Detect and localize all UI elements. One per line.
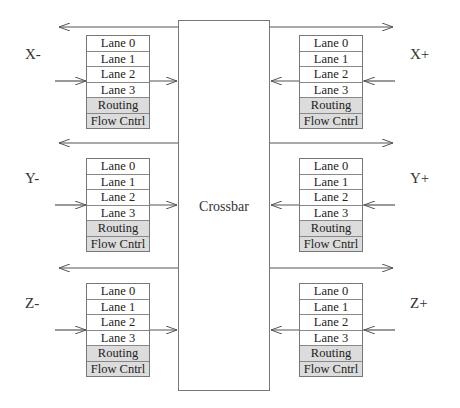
lane-2-cell: Lane 2 <box>300 315 362 331</box>
lane-3-cell: Lane 3 <box>87 83 149 99</box>
crossbar: Crossbar <box>178 20 270 391</box>
routing-cell: Routing <box>300 346 362 362</box>
lane-0-cell: Lane 0 <box>300 159 362 175</box>
flow-control-cell: Flow Cntrl <box>300 114 362 129</box>
lane-1-cell: Lane 1 <box>87 300 149 316</box>
routing-cell: Routing <box>87 98 149 114</box>
port-label-z-plus: Z+ <box>410 295 428 311</box>
crossbar-label: Crossbar <box>179 199 269 215</box>
flow-control-cell: Flow Cntrl <box>300 362 362 377</box>
lane-3-cell: Lane 3 <box>300 331 362 347</box>
lane-3-cell: Lane 3 <box>300 83 362 99</box>
buffer-x-plus: Lane 0 Lane 1 Lane 2 Lane 3 Routing Flow… <box>299 35 363 129</box>
router-diagram: Crossbar X- Y- Z- X+ Y+ Z+ Lane 0 Lane 1… <box>0 0 460 408</box>
lane-0-cell: Lane 0 <box>300 284 362 300</box>
routing-cell: Routing <box>300 98 362 114</box>
port-label-y-plus: Y+ <box>410 170 429 186</box>
port-label-x-plus: X+ <box>410 46 429 62</box>
routing-cell: Routing <box>87 221 149 237</box>
lane-0-cell: Lane 0 <box>87 36 149 52</box>
flow-control-cell: Flow Cntrl <box>87 114 149 129</box>
buffer-x-minus: Lane 0 Lane 1 Lane 2 Lane 3 Routing Flow… <box>86 35 150 129</box>
lane-1-cell: Lane 1 <box>300 300 362 316</box>
lane-1-cell: Lane 1 <box>87 52 149 68</box>
flow-control-cell: Flow Cntrl <box>300 237 362 252</box>
lane-1-cell: Lane 1 <box>300 175 362 191</box>
lane-2-cell: Lane 2 <box>300 190 362 206</box>
lane-2-cell: Lane 2 <box>87 67 149 83</box>
lane-1-cell: Lane 1 <box>87 175 149 191</box>
buffer-y-minus: Lane 0 Lane 1 Lane 2 Lane 3 Routing Flow… <box>86 158 150 252</box>
lane-1-cell: Lane 1 <box>300 52 362 68</box>
buffer-y-plus: Lane 0 Lane 1 Lane 2 Lane 3 Routing Flow… <box>299 158 363 252</box>
lane-0-cell: Lane 0 <box>87 284 149 300</box>
routing-cell: Routing <box>87 346 149 362</box>
buffer-z-minus: Lane 0 Lane 1 Lane 2 Lane 3 Routing Flow… <box>86 283 150 377</box>
routing-cell: Routing <box>300 221 362 237</box>
lane-3-cell: Lane 3 <box>87 206 149 222</box>
port-label-x-minus: X- <box>25 46 41 62</box>
port-label-z-minus: Z- <box>25 295 39 311</box>
lane-3-cell: Lane 3 <box>300 206 362 222</box>
flow-control-cell: Flow Cntrl <box>87 237 149 252</box>
lane-0-cell: Lane 0 <box>300 36 362 52</box>
lane-2-cell: Lane 2 <box>87 315 149 331</box>
lane-2-cell: Lane 2 <box>87 190 149 206</box>
buffer-z-plus: Lane 0 Lane 1 Lane 2 Lane 3 Routing Flow… <box>299 283 363 377</box>
lane-2-cell: Lane 2 <box>300 67 362 83</box>
flow-control-cell: Flow Cntrl <box>87 362 149 377</box>
port-label-y-minus: Y- <box>25 170 39 186</box>
lane-3-cell: Lane 3 <box>87 331 149 347</box>
lane-0-cell: Lane 0 <box>87 159 149 175</box>
